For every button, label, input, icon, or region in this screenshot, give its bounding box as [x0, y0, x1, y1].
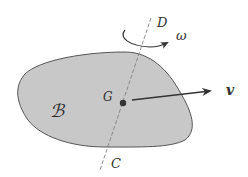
center-of-mass-label: G: [103, 90, 113, 104]
rigid-body-diagram: D ω G v ℬ C: [0, 0, 248, 177]
angular-velocity-arrow: [123, 30, 167, 47]
axis-top-label: D: [156, 15, 168, 30]
velocity-label: v: [226, 82, 235, 98]
axis-bottom-label: C: [111, 156, 121, 171]
center-of-mass-dot: [120, 100, 126, 106]
body-label: ℬ: [50, 100, 66, 121]
angular-velocity-label: ω: [176, 28, 187, 43]
